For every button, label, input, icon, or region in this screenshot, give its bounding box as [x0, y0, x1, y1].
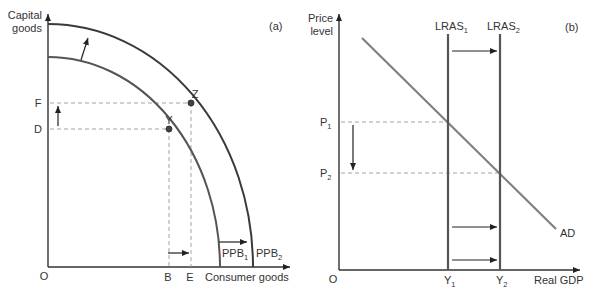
tick-f: F	[35, 97, 42, 109]
panel-a-origin: O	[40, 270, 49, 282]
y2-label: Y2	[496, 274, 508, 289]
panel-b-y-label-2: level	[310, 25, 333, 37]
panel-a-x-label: Consumer goods	[205, 271, 289, 283]
tick-d: D	[34, 123, 42, 135]
label-y: Y	[165, 114, 173, 126]
tick-b: B	[164, 271, 171, 283]
panel-a-tag: (a)	[269, 20, 282, 32]
p1-label: P1	[320, 116, 332, 131]
panel-b-tag: (b)	[565, 21, 578, 33]
y1-label: Y1	[444, 274, 456, 289]
label-z: Z	[192, 88, 199, 100]
lras1-label: LRAS1	[435, 20, 468, 35]
ad-label: AD	[560, 227, 575, 239]
ppb1-label: PPB1	[222, 247, 248, 262]
ppb2-label: PPB2	[256, 247, 282, 262]
panel-b-origin: O	[329, 273, 338, 285]
lras2-label: LRAS2	[487, 20, 520, 35]
p2-label: P2	[320, 167, 332, 182]
panel-b-x-label: Real GDP	[534, 274, 584, 286]
ppb-shift-arrow-icon	[81, 38, 88, 60]
panel-b-ad-lras: Price level (b) LRAS1 LRAS2 P1 P2 AD O Y…	[308, 12, 584, 289]
point-z	[188, 100, 194, 106]
ad-curve	[362, 38, 556, 229]
panel-a-y-label-2: goods	[12, 22, 42, 34]
panel-a-ppb: Capital goods (a) F D Z Y O B E Consumer…	[8, 9, 290, 283]
panel-b-guides	[341, 122, 500, 173]
panel-b-y-label-1: Price	[308, 12, 333, 24]
point-y	[166, 126, 172, 132]
tick-e: E	[186, 271, 193, 283]
panel-a-y-label-1: Capital	[8, 9, 42, 21]
economic-growth-diagram: Capital goods (a) F D Z Y O B E Consumer…	[0, 0, 595, 295]
